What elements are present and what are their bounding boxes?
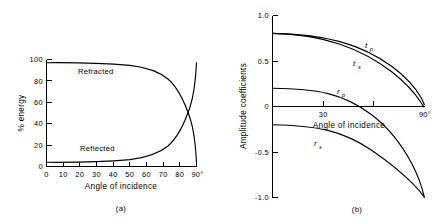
panel-b-caption: (b) — [352, 205, 363, 214]
panel-a-ytick-20: 20 — [34, 141, 43, 150]
panel-a-y-axis-title: % energy — [17, 94, 26, 132]
panel-a-curve-refracted — [47, 63, 197, 163]
panel-b-ytick-0-5: 0.5 — [258, 57, 269, 66]
panel-b-label-r-s: r s — [314, 139, 322, 150]
panel-b-xtick-30: 30 — [319, 110, 328, 119]
panel-b-ytick-neg1-0: -1.0 — [255, 193, 269, 202]
panel-a-xtick-40: 40 — [109, 170, 118, 179]
panel-a-ytick-0: 0 — [39, 162, 43, 171]
panel-b-xtick-90: 90° — [419, 110, 431, 119]
panel-b-y-ticks — [273, 16, 278, 198]
panel-b-plot: 1.0 0.5 0 -0.5 -1.0 30 90° t p t s — [222, 0, 445, 224]
panel-b-label-r-s-base: r — [314, 139, 317, 148]
panel-a-label-refracted: Refracted — [78, 67, 114, 76]
panel-b-y-axis-title: Amplitude coefficients — [239, 63, 248, 149]
panel-a-xtick-80: 80 — [175, 170, 184, 179]
panel-b-x-ticks — [323, 101, 374, 107]
panel-a-plot: 100 80 60 40 20 0 0 10 20 30 40 50 60 70… — [0, 0, 222, 224]
panel-b-label-t-s-sub: s — [358, 64, 361, 70]
panel-a-xtick-60: 60 — [142, 170, 151, 179]
panel-b-label-t-s-base: t — [353, 59, 356, 68]
panel-a-xtick-20: 20 — [75, 170, 84, 179]
panel-b-curve-r-p — [273, 88, 425, 197]
panel-a: 100 80 60 40 20 0 0 10 20 30 40 50 60 70… — [0, 0, 222, 224]
panel-a-ytick-80: 80 — [34, 77, 43, 86]
panel-b-x-axis-title: Angle of incidence — [313, 121, 385, 130]
panel-a-ytick-100: 100 — [30, 55, 43, 64]
panel-a-xtick-0: 0 — [44, 170, 48, 179]
panel-b-label-t-p-base: t — [365, 41, 368, 50]
panel-a-caption: (a) — [116, 204, 127, 213]
panel-b-curve-t-p — [273, 33, 425, 104]
panel-b-label-t-p: t p — [365, 41, 373, 52]
panel-b-label-r-p-base: r — [337, 87, 340, 96]
panel-a-x-axis-title: Angle of incidence — [85, 182, 157, 191]
panel-b: 1.0 0.5 0 -0.5 -1.0 30 90° t p t s — [222, 0, 445, 224]
panel-a-xtick-70: 70 — [159, 170, 168, 179]
panel-a-ytick-60: 60 — [34, 98, 43, 107]
figure-container: 100 80 60 40 20 0 0 10 20 30 40 50 60 70… — [0, 0, 445, 224]
panel-b-curve-r-s — [273, 125, 425, 198]
panel-a-y-ticks — [47, 60, 52, 167]
panel-a-label-reflected: Reflected — [80, 144, 115, 153]
panel-b-label-r-p: r p — [337, 87, 345, 98]
panel-b-ytick-neg0-5: -0.5 — [255, 148, 269, 157]
panel-a-xtick-50: 50 — [125, 170, 134, 179]
panel-b-label-r-p-sub: p — [341, 92, 345, 98]
panel-a-xtick-90: 90° — [191, 170, 203, 179]
panel-b-label-t-p-sub: p — [369, 46, 373, 52]
panel-a-ytick-40: 40 — [34, 119, 43, 128]
panel-a-xtick-10: 10 — [59, 170, 68, 179]
panel-b-ytick-0: 0 — [265, 102, 269, 111]
panel-b-label-t-s: t s — [353, 59, 361, 70]
panel-b-ytick-1-0: 1.0 — [258, 11, 269, 20]
panel-a-xtick-30: 30 — [92, 170, 101, 179]
panel-b-label-r-s-sub: s — [319, 144, 322, 150]
panel-a-curve-reflected — [47, 63, 197, 163]
